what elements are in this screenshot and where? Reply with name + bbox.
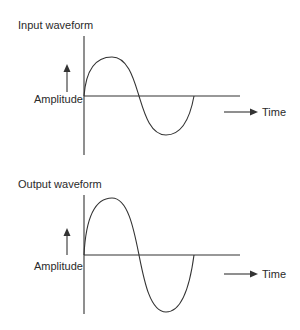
output-up-arrowhead-icon bbox=[64, 228, 71, 236]
waveform-diagram bbox=[0, 0, 300, 330]
output-right-arrowhead-icon bbox=[250, 271, 258, 278]
input-right-arrowhead-icon bbox=[250, 109, 258, 116]
input-up-arrowhead-icon bbox=[64, 64, 71, 72]
